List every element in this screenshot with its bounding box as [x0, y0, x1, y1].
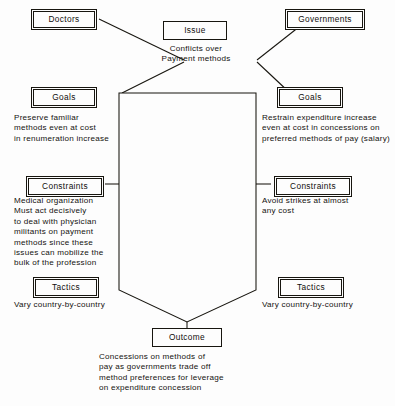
node-issue-label[interactable]: Issue [163, 21, 227, 40]
node-outcome-label[interactable]: Outcome [152, 328, 222, 347]
node-left-goals[interactable]: Goals [31, 87, 97, 108]
issue-description: Conflicts over Payment methods [150, 44, 242, 65]
node-right-constraints[interactable]: Constraints [274, 176, 352, 197]
node-left-tactics[interactable]: Tactics [33, 277, 99, 298]
node-left-constraints[interactable]: Constraints [26, 176, 104, 197]
outcome-description: Concessions on methods of pay as governm… [99, 352, 284, 394]
left-tactics-description: Vary country-by-country [14, 300, 118, 310]
central-funnel-shape [119, 93, 256, 322]
node-right-tactics[interactable]: Tactics [278, 277, 344, 298]
issue-description-line-1: Conflicts over [150, 44, 242, 54]
right-goals-description: Restrain expenditure increase even at co… [262, 113, 395, 144]
left-constraints-description: Medical organization Must act decisively… [14, 196, 118, 269]
node-right-constraints-label: Constraints [276, 178, 350, 195]
node-right-goals-label: Goals [279, 89, 341, 106]
node-right-goals[interactable]: Goals [277, 87, 343, 108]
node-governments-label: Governments [287, 11, 363, 28]
right-tactics-description: Vary country-by-country [262, 300, 395, 310]
diagram-canvas: Doctors Governments Issue Conflicts over… [0, 0, 395, 406]
node-governments[interactable]: Governments [285, 9, 365, 30]
node-doctors-label: Doctors [33, 11, 95, 28]
node-left-constraints-label: Constraints [28, 178, 102, 195]
node-right-tactics-label: Tactics [280, 279, 342, 296]
node-left-goals-label: Goals [33, 89, 95, 106]
node-left-tactics-label: Tactics [35, 279, 97, 296]
issue-description-line-2: Payment methods [150, 54, 242, 64]
right-constraints-description: Avoid strikes at almost any cost [262, 196, 390, 217]
node-doctors[interactable]: Doctors [31, 9, 97, 30]
connector-issue-to-left-goals [122, 62, 184, 93]
left-goals-description: Preserve familiar methods even at cost i… [14, 113, 118, 144]
